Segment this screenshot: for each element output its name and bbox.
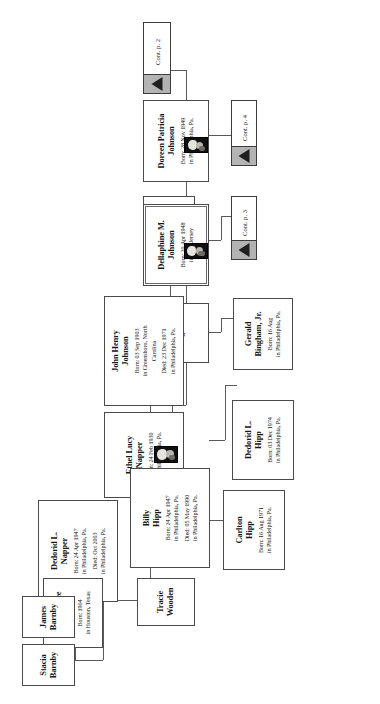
person-node-tracie-wooden[interactable]: Tracie Wooden <box>137 578 195 626</box>
person-details: Gerald Bingham, Jr. Born: 16 Aug in Phil… <box>244 311 282 357</box>
person-name-line2: Johnson <box>167 114 177 169</box>
person-name-line2: Johnson <box>167 220 177 269</box>
continuation-label: Cont. p. 3 <box>241 210 248 236</box>
person-name-line1: Stacia <box>38 652 48 678</box>
person-photo <box>154 446 178 463</box>
person-details: Tracie Wooden <box>156 588 177 617</box>
person-node-dellaphine-m-johnson[interactable]: Dellaphine M. Johnson Born: 20 Apr 1948 … <box>143 204 209 286</box>
person-born: Born: 24 Apr 1947 <box>71 528 79 574</box>
connector-line <box>103 600 104 660</box>
connector-line <box>221 318 222 332</box>
person-name-line1: Doreen Patricia <box>157 114 167 169</box>
person-name-line2: Napper <box>60 528 70 574</box>
continuation-node-page-4[interactable]: Cont. p. 4 <box>231 100 257 166</box>
person-node-billy-hipp[interactable]: Billy Hipp Born: 24 Apr 1947 in Philadel… <box>130 468 210 568</box>
person-name-line1: Dedorid L. <box>244 417 254 463</box>
person-died: Died: Oct 2003 <box>90 528 98 574</box>
person-death-place: in Philadelphia, Pa. <box>191 495 199 542</box>
connector-line <box>75 660 103 661</box>
person-node-john-henry-johnson[interactable]: John Henry Johnson Born: 03 Sep 1903 in … <box>104 296 184 406</box>
person-birthplace: in Philadelphia, Pa. <box>274 417 282 463</box>
person-died: Died: 05 May 1990 <box>182 495 190 542</box>
person-name-line1: Tracie <box>156 588 166 617</box>
person-born: Born: 24 Apr 1947 <box>163 495 171 542</box>
person-name-line1: Dellaphine M. <box>157 220 167 269</box>
triangle-up-icon <box>232 146 256 165</box>
person-born: Born: 03 Dec 1974 <box>266 417 274 463</box>
person-node-gerald-bingham-jr[interactable]: Gerald Bingham, Jr. Born: 16 Aug in Phil… <box>233 298 293 370</box>
family-tree-chart: Cont. p. 2 Doreen Patricia Johnson Born:… <box>0 0 380 704</box>
person-name-line1: Dedorid L. <box>50 528 60 574</box>
person-details: Carlton Hipp Born: 16 Aug 1971 in Philad… <box>235 507 273 553</box>
person-born: Born: 16 Aug 1971 <box>257 507 265 553</box>
person-born: Born: 1964 <box>76 592 84 635</box>
person-name-line2: Wooden <box>166 588 176 617</box>
person-details: John Henry Johnson Born: 03 Sep 1903 in … <box>111 326 176 377</box>
person-name-line1: James <box>38 604 48 630</box>
connector-line <box>221 318 233 319</box>
person-node-doreen-patricia-johnson[interactable]: Doreen Patricia Johnson Born: 28 Nov 194… <box>143 100 209 182</box>
person-birthplace: in Philadelphia, Pa. <box>80 528 88 574</box>
person-born: Born: 16 Aug <box>266 311 274 357</box>
continuation-label: Cont. p. 4 <box>241 115 248 141</box>
connector-line <box>209 520 223 521</box>
person-birthplace: in Greensboro, North <box>141 326 149 377</box>
person-name-line2: Barnby <box>49 604 59 630</box>
connector-line <box>209 240 221 241</box>
person-photo <box>184 243 208 259</box>
person-name-line2: Johnson <box>122 326 132 377</box>
person-details: Dedorid L. Napper Born: 24 Apr 1947 in P… <box>50 528 107 574</box>
person-name-line1: Gerald <box>244 311 254 357</box>
person-died: Died: 23 Dec 1971 <box>161 326 169 377</box>
person-birthplace: in Philadelphia, Pa. <box>172 495 180 542</box>
person-node-james-barnby[interactable]: James Barnby <box>22 596 75 638</box>
triangle-up-icon <box>144 74 170 93</box>
person-node-stacia-barnby[interactable]: Stacia Barnby <box>22 644 75 686</box>
person-name-line2: Hipp <box>152 495 162 542</box>
connector-line <box>209 135 231 136</box>
person-name-line1: Carlton <box>235 507 245 553</box>
person-name-line2: Hipp <box>245 507 255 553</box>
connector-line <box>221 216 231 217</box>
person-birthplace-2: Carolina <box>150 326 158 377</box>
person-node-carlton-hipp[interactable]: Carlton Hipp Born: 16 Aug 1971 in Philad… <box>223 490 285 570</box>
person-details: Stacia Barnby <box>38 652 59 678</box>
person-name-line2: Barnby <box>49 652 59 678</box>
connector-line <box>225 385 237 386</box>
person-birthplace: in Philadelphia, Pa. <box>265 507 273 553</box>
person-details: Dedorid L. Hipp Born: 03 Dec 1974 in Phi… <box>244 417 282 463</box>
person-photo <box>184 137 208 153</box>
person-death-place: in Philadelphia, Pa. <box>99 528 107 574</box>
person-born: Born: 03 Sep 1903 <box>133 326 141 377</box>
connector-line <box>209 332 221 333</box>
continuation-node-page-3[interactable]: Cont. p. 3 <box>231 196 257 260</box>
person-birthplace: in Houston, Texas <box>84 592 92 635</box>
person-name-line2: Bingham, Jr. <box>254 311 264 357</box>
person-details: James Barnby <box>38 604 59 630</box>
person-birthplace: in Philadelphia, Pa. <box>274 311 282 357</box>
person-details: Billy Hipp Born: 24 Apr 1947 in Philadel… <box>142 495 199 542</box>
connector-line <box>225 385 226 440</box>
connector-line <box>221 216 222 240</box>
person-node-dedorid-l-hipp[interactable]: Dedorid L. Hipp Born: 03 Dec 1974 in Phi… <box>232 400 294 480</box>
triangle-up-icon <box>232 240 256 259</box>
continuation-node-page-2[interactable]: Cont. p. 2 <box>143 22 171 94</box>
person-name-line2: Hipp <box>254 417 264 463</box>
continuation-label: Cont. p. 2 <box>154 39 161 65</box>
person-death-place: in Philadelphia, Pa. <box>169 326 177 377</box>
person-name-line1: Billy <box>142 495 152 542</box>
connector-line <box>209 440 225 441</box>
person-name-line1: John Henry <box>111 326 121 377</box>
